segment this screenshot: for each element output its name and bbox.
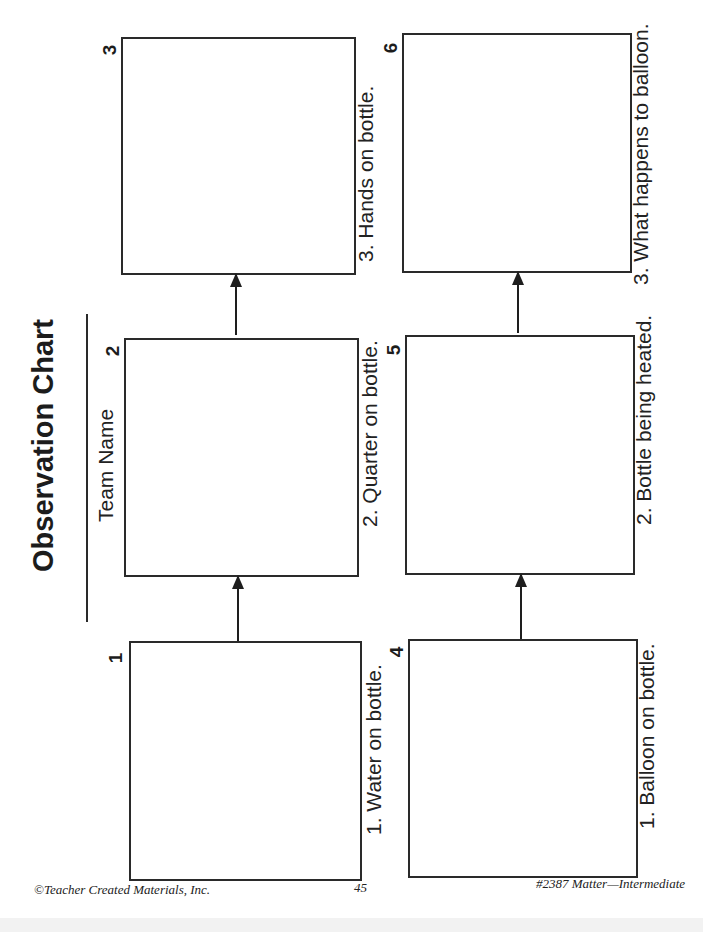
observation-box-3[interactable] bbox=[121, 37, 356, 275]
observation-box-6[interactable] bbox=[402, 33, 632, 273]
footer-page-number: 45 bbox=[354, 880, 367, 896]
box-number-6: 6 bbox=[381, 38, 401, 58]
footer-copyright: ©Teacher Created Materials, Inc. bbox=[34, 882, 210, 898]
box-number-4: 4 bbox=[387, 642, 407, 662]
observation-box-2[interactable] bbox=[124, 338, 359, 577]
observation-box-5[interactable] bbox=[405, 335, 635, 575]
caption-box-2: 2. Quarter on bottle. bbox=[358, 307, 382, 527]
caption-box-5: 2. Bottle being heated. bbox=[632, 305, 656, 525]
page-title: Observation Chart bbox=[26, 362, 60, 572]
box-number-2: 2 bbox=[103, 341, 123, 361]
box-number-1: 1 bbox=[106, 648, 126, 668]
arrow-up-icon bbox=[235, 275, 237, 335]
arrow-up-icon bbox=[520, 575, 522, 639]
footer-book-id: #2387 Matter—Intermediate bbox=[536, 876, 685, 892]
box-number-5: 5 bbox=[384, 340, 404, 360]
scan-edge-band bbox=[0, 918, 703, 932]
team-name-label: Team Name bbox=[94, 422, 118, 522]
caption-box-3: 3. Hands on bottle. bbox=[354, 42, 378, 262]
caption-box-6: 3. What happens to balloon. bbox=[629, 25, 653, 285]
team-name-line bbox=[86, 314, 88, 622]
caption-box-1: 1. Water on bottle. bbox=[362, 615, 386, 835]
caption-box-4: 1. Balloon on bottle. bbox=[635, 609, 659, 829]
observation-box-4[interactable] bbox=[408, 639, 638, 878]
box-number-3: 3 bbox=[100, 40, 120, 60]
arrow-up-icon bbox=[237, 577, 239, 641]
arrow-up-icon bbox=[517, 273, 519, 333]
observation-box-1[interactable] bbox=[129, 641, 362, 881]
